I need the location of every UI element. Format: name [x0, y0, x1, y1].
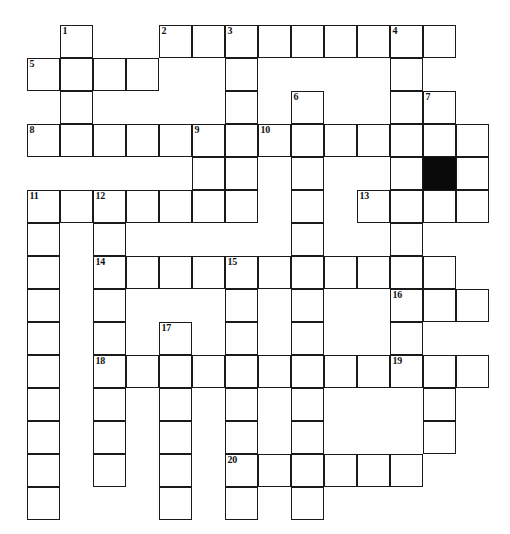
crossword-cell[interactable] [60, 91, 93, 124]
crossword-cell[interactable] [357, 454, 390, 487]
crossword-cell[interactable] [291, 322, 324, 355]
crossword-cell[interactable] [258, 454, 291, 487]
crossword-cell[interactable]: 12 [93, 190, 126, 223]
crossword-cell[interactable] [225, 91, 258, 124]
crossword-cell[interactable] [225, 355, 258, 388]
crossword-cell[interactable] [291, 289, 324, 322]
crossword-cell[interactable] [324, 454, 357, 487]
crossword-cell[interactable] [423, 421, 456, 454]
crossword-cell[interactable] [93, 124, 126, 157]
crossword-cell[interactable] [225, 487, 258, 520]
crossword-cell[interactable] [456, 157, 489, 190]
crossword-cell[interactable] [291, 487, 324, 520]
crossword-cell[interactable] [456, 190, 489, 223]
crossword-cell[interactable] [192, 157, 225, 190]
crossword-cell[interactable] [324, 355, 357, 388]
crossword-cell[interactable] [357, 124, 390, 157]
crossword-cell[interactable] [357, 256, 390, 289]
crossword-cell[interactable] [192, 190, 225, 223]
crossword-cell[interactable] [390, 58, 423, 91]
crossword-cell[interactable] [357, 25, 390, 58]
crossword-cell[interactable] [126, 58, 159, 91]
crossword-cell[interactable] [225, 124, 258, 157]
crossword-cell[interactable] [456, 124, 489, 157]
crossword-cell[interactable] [423, 256, 456, 289]
crossword-cell[interactable] [390, 256, 423, 289]
crossword-cell[interactable] [27, 289, 60, 322]
crossword-cell[interactable]: 18 [93, 355, 126, 388]
crossword-cell[interactable]: 19 [390, 355, 423, 388]
crossword-cell[interactable] [225, 190, 258, 223]
crossword-cell[interactable]: 17 [159, 322, 192, 355]
crossword-cell[interactable] [27, 421, 60, 454]
crossword-cell[interactable] [93, 322, 126, 355]
crossword-cell[interactable] [357, 355, 390, 388]
crossword-cell[interactable] [291, 454, 324, 487]
crossword-cell[interactable] [192, 25, 225, 58]
crossword-cell[interactable] [225, 421, 258, 454]
crossword-cell[interactable] [126, 355, 159, 388]
crossword-cell[interactable] [159, 487, 192, 520]
crossword-cell[interactable] [159, 256, 192, 289]
crossword-cell[interactable] [93, 421, 126, 454]
crossword-cell[interactable] [258, 256, 291, 289]
crossword-cell[interactable] [423, 388, 456, 421]
crossword-cell[interactable] [192, 256, 225, 289]
crossword-cell[interactable]: 20 [225, 454, 258, 487]
crossword-cell[interactable] [159, 454, 192, 487]
crossword-cell[interactable] [324, 25, 357, 58]
crossword-cell[interactable] [390, 190, 423, 223]
crossword-cell[interactable]: 11 [27, 190, 60, 223]
crossword-cell[interactable] [93, 223, 126, 256]
crossword-cell[interactable] [159, 421, 192, 454]
crossword-cell[interactable] [225, 157, 258, 190]
crossword-cell[interactable] [159, 190, 192, 223]
crossword-cell[interactable] [324, 124, 357, 157]
crossword-cell[interactable] [291, 421, 324, 454]
crossword-cell[interactable]: 10 [258, 124, 291, 157]
crossword-cell[interactable] [93, 58, 126, 91]
crossword-cell[interactable]: 9 [192, 124, 225, 157]
crossword-cell[interactable] [291, 25, 324, 58]
crossword-cell[interactable]: 4 [390, 25, 423, 58]
crossword-cell[interactable] [456, 289, 489, 322]
crossword-cell[interactable] [390, 223, 423, 256]
crossword-cell[interactable] [324, 256, 357, 289]
crossword-cell[interactable] [126, 124, 159, 157]
crossword-cell[interactable]: 5 [27, 58, 60, 91]
crossword-cell[interactable] [27, 256, 60, 289]
crossword-cell[interactable]: 15 [225, 256, 258, 289]
crossword-cell[interactable] [423, 190, 456, 223]
crossword-cell[interactable]: 3 [225, 25, 258, 58]
crossword-cell[interactable] [291, 157, 324, 190]
crossword-cell[interactable] [225, 388, 258, 421]
crossword-cell[interactable]: 1 [60, 25, 93, 58]
crossword-cell[interactable] [390, 91, 423, 124]
crossword-cell[interactable] [93, 388, 126, 421]
crossword-cell[interactable] [27, 223, 60, 256]
crossword-cell[interactable] [27, 454, 60, 487]
crossword-cell[interactable] [93, 289, 126, 322]
crossword-cell[interactable]: 13 [357, 190, 390, 223]
crossword-cell[interactable] [423, 124, 456, 157]
crossword-cell[interactable] [60, 190, 93, 223]
crossword-cell[interactable] [27, 487, 60, 520]
crossword-cell[interactable]: 14 [93, 256, 126, 289]
crossword-cell[interactable] [126, 190, 159, 223]
crossword-cell[interactable] [390, 322, 423, 355]
crossword-cell[interactable] [291, 355, 324, 388]
crossword-cell[interactable] [159, 355, 192, 388]
crossword-cell[interactable] [27, 388, 60, 421]
crossword-cell[interactable] [93, 454, 126, 487]
crossword-cell[interactable] [159, 388, 192, 421]
crossword-cell[interactable] [225, 289, 258, 322]
crossword-cell[interactable] [159, 124, 192, 157]
crossword-cell[interactable]: 7 [423, 91, 456, 124]
crossword-cell[interactable] [291, 256, 324, 289]
crossword-cell[interactable] [27, 322, 60, 355]
crossword-cell[interactable] [27, 355, 60, 388]
crossword-cell[interactable] [423, 289, 456, 322]
crossword-cell[interactable] [291, 223, 324, 256]
crossword-cell[interactable] [60, 58, 93, 91]
crossword-cell[interactable]: 8 [27, 124, 60, 157]
